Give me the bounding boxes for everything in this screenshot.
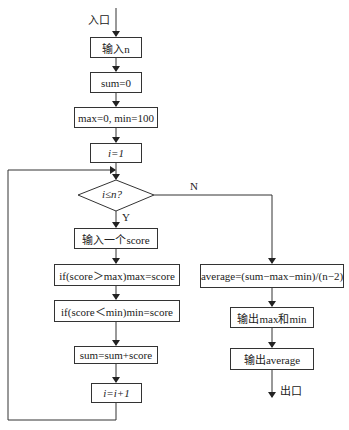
entry-label: 入口 [88,11,110,27]
output-max-min-box: 输出max和min [230,307,314,328]
increment-box: i=i+1 [91,383,142,403]
accumulate-box: sum=sum+score [74,346,158,364]
i-init-box: i=1 [90,143,142,163]
exit-label: 出口 [280,382,302,398]
no-label: N [190,180,198,192]
update-min-box: if(score＜min)min=score [54,300,180,322]
update-max-box: if(score＞max)max=score [54,264,180,286]
output-average-box: 输出average [230,348,314,370]
max-min-init-box: max=0, min=100 [74,107,158,128]
sum-init-box: sum=0 [90,72,142,93]
yes-label: Y [122,211,130,223]
compute-average-box: average=(sum−max−min)/(n−2) [200,264,344,288]
input-score-box: 输入一个score [74,228,158,249]
input-n-box: 输入n [90,37,142,58]
condition-diamond: i≤n? [102,188,122,200]
